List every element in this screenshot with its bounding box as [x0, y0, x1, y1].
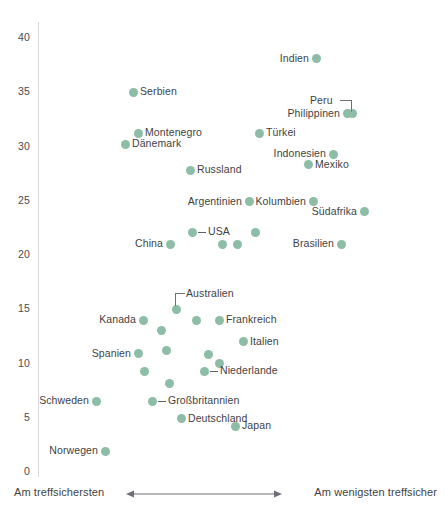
data-point[interactable] [215, 316, 224, 325]
data-point-label: Brasilien [293, 237, 334, 249]
data-point[interactable] [166, 240, 175, 249]
data-point-label: Kolumbien [255, 195, 306, 207]
data-point[interactable] [245, 197, 254, 206]
x-axis-footer: Am treffsichersten Am wenigsten treffsic… [0, 486, 445, 512]
data-point[interactable] [192, 316, 201, 325]
plot-area: 0510152025303540 IndienSerbienPeruPhilip… [0, 0, 445, 512]
data-point-label: Dänemark [132, 137, 181, 149]
data-point[interactable] [162, 346, 171, 355]
y-axis-tick-label: 0 [8, 465, 30, 477]
data-point-label: Frankreich [226, 313, 277, 325]
data-point[interactable] [200, 367, 209, 376]
data-point[interactable] [231, 422, 240, 431]
x-axis-left-label: Am treffsichersten [14, 486, 104, 498]
data-point-label: Schweden [39, 394, 89, 406]
data-point-label: Argentinien [188, 195, 242, 207]
data-point[interactable] [255, 129, 264, 138]
data-point[interactable] [233, 240, 242, 249]
scatter-chart: 0510152025303540 IndienSerbienPeruPhilip… [0, 0, 445, 512]
data-point[interactable] [101, 447, 110, 456]
label-leader-line [158, 401, 166, 402]
data-point-label: Norwegen [49, 444, 98, 456]
data-point-label: Niederlande [220, 364, 278, 376]
data-point-label: China [135, 237, 163, 249]
y-axis-tick-label: 20 [8, 248, 30, 260]
y-axis-line [38, 22, 39, 477]
data-point-label: Südafrika [312, 205, 357, 217]
data-point[interactable] [343, 109, 352, 118]
data-point[interactable] [92, 397, 101, 406]
data-point-label: Türkei [266, 126, 296, 138]
data-point[interactable] [157, 326, 166, 335]
data-point-label: Australien [186, 287, 234, 299]
label-leader-line [198, 232, 206, 233]
label-leader-line [210, 371, 218, 372]
data-point-label: USA [208, 225, 230, 237]
data-point[interactable] [148, 397, 157, 406]
data-point[interactable] [251, 228, 260, 237]
y-axis-tick-label: 5 [8, 411, 30, 423]
data-point-label: Deutschland [188, 412, 247, 424]
data-point[interactable] [139, 316, 148, 325]
data-point[interactable] [121, 140, 130, 149]
y-axis-tick-label: 25 [8, 194, 30, 206]
data-point[interactable] [129, 88, 138, 97]
y-axis-tick-label: 15 [8, 302, 30, 314]
y-axis-tick-label: 10 [8, 357, 30, 369]
data-point[interactable] [204, 350, 213, 359]
data-point[interactable] [188, 228, 197, 237]
data-point[interactable] [304, 160, 313, 169]
data-point[interactable] [239, 337, 248, 346]
data-point[interactable] [186, 166, 195, 175]
data-point[interactable] [134, 349, 143, 358]
y-axis-tick-label: 35 [8, 85, 30, 97]
y-axis-tick-label: 40 [8, 31, 30, 43]
label-leader-line [175, 293, 185, 306]
data-point[interactable] [177, 414, 186, 423]
data-point[interactable] [140, 367, 149, 376]
data-point-label: Russland [197, 163, 242, 175]
data-point-label: Spanien [92, 347, 131, 359]
data-point[interactable] [218, 240, 227, 249]
data-point-label: Indien [280, 52, 309, 64]
data-point[interactable] [312, 54, 321, 63]
data-point-label: Serbien [140, 85, 177, 97]
y-axis-tick-label: 30 [8, 140, 30, 152]
data-point-label: Japan [242, 419, 271, 431]
data-point-label: Großbritannien [168, 394, 239, 406]
data-point-label: Peru [310, 94, 333, 106]
data-point-label: Italien [250, 335, 279, 347]
data-point[interactable] [337, 240, 346, 249]
data-point[interactable] [360, 207, 369, 216]
data-point[interactable] [165, 379, 174, 388]
x-axis-right-label: Am wenigsten treffsicher [314, 486, 437, 498]
data-point-label: Kanada [99, 313, 136, 325]
data-point-label: Mexiko [315, 158, 349, 170]
data-point-label: Philippinen [288, 107, 340, 119]
double-arrow-horizontal-icon [126, 486, 282, 502]
